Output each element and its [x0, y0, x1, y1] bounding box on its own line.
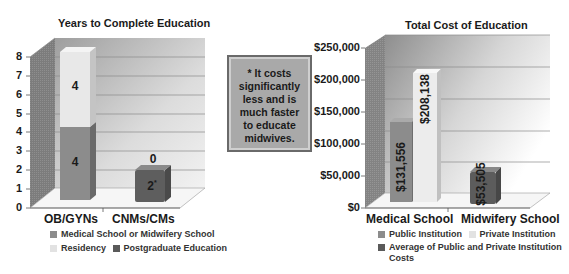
legend-label: Private Institution: [480, 229, 556, 239]
left-ytick-2: 2: [8, 163, 22, 175]
left-ytick-7: 7: [8, 69, 22, 81]
right-ytick-0: $0: [305, 201, 360, 213]
note-line: significantly: [229, 80, 310, 93]
right-legend-avg-cont: Costs: [389, 253, 414, 263]
right-ytick-150000: $150,000: [305, 105, 360, 117]
obgyn-medical-label: 4: [60, 155, 90, 169]
cnm-postgrad-value: 2: [147, 179, 154, 193]
legend-label: Postgraduate Education: [124, 243, 228, 253]
cnm-postgrad-label: 2*: [140, 179, 164, 193]
left-xcat-cnm: CNMs/CMs: [112, 212, 175, 226]
note-box: * It costs significantly less and is muc…: [227, 55, 312, 152]
left-ytick-0: 0: [8, 201, 22, 213]
note-line: midwives.: [229, 132, 310, 145]
swatch-medical: [50, 231, 57, 238]
left-ytick-1: 1: [8, 182, 22, 194]
right-ytick-100000: $100,000: [305, 137, 360, 149]
legend-label: Public Institution: [389, 229, 462, 239]
left-ytick-6: 6: [8, 88, 22, 100]
legend-label: Residency: [61, 243, 106, 253]
private-value-label: $208,138: [418, 67, 432, 131]
avg-value-label: $53,505: [474, 154, 488, 214]
swatch-public: [378, 231, 385, 238]
right-legend-avg: Average of Public and Private Institutio…: [378, 242, 562, 252]
left-legend-residency: Residency Postgraduate Education: [50, 243, 227, 253]
swatch-residency: [50, 245, 57, 252]
note-line: much faster: [229, 106, 310, 119]
note-text: * It costs significantly less and is muc…: [229, 57, 310, 145]
legend-label: Medical School or Midwifery School: [61, 229, 215, 239]
note-line: to educate: [229, 119, 310, 132]
public-value-label: $131,556: [394, 135, 408, 199]
obgyn-residency-label: 4: [60, 79, 90, 93]
swatch-avg: [378, 244, 385, 251]
right-chart-plot-area: [330, 0, 569, 225]
cnm-residency-label: 0: [141, 152, 165, 166]
right-ytick-250000: $250,000: [305, 41, 360, 53]
left-chart-plot-area: [0, 0, 230, 220]
swatch-private: [469, 231, 476, 238]
left-ytick-5: 5: [8, 107, 22, 119]
swatch-postgrad: [113, 245, 120, 252]
left-ytick-4: 4: [8, 125, 22, 137]
note-line: less and is: [229, 93, 310, 106]
right-legend-row1: Public Institution Private Institution: [378, 229, 556, 239]
left-ytick-8: 8: [8, 50, 22, 62]
right-xcat-midwifery: Midwifery School: [461, 212, 560, 226]
left-ytick-3: 3: [8, 144, 22, 156]
left-legend-medical: Medical School or Midwifery School: [50, 229, 215, 239]
right-ytick-50000: $50,000: [305, 169, 360, 181]
legend-label: Average of Public and Private Institutio…: [389, 242, 562, 252]
right-xcat-medical: Medical School: [366, 212, 453, 226]
asterisk: *: [154, 179, 157, 186]
right-ytick-200000: $200,000: [305, 73, 360, 85]
note-line: * It costs: [229, 67, 310, 80]
left-xcat-obgyn: OB/GYNs: [44, 212, 98, 226]
